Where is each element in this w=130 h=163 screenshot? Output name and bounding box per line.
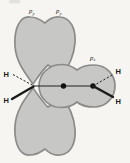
cropped-print-artifact [9,0,20,4]
py-label-left: py [28,7,36,16]
nucleus-dot-left [61,83,66,88]
h-label-top-left: H [4,70,9,79]
py-label-right: py [55,7,63,16]
py-label-left-sub: y [32,11,36,16]
h-label-bottom-right: H [116,97,121,106]
h-label-top-right: H [116,67,121,76]
pz-label-sub: z [93,57,96,62]
pz-label: pz [89,54,96,63]
orbital-diagram-canvas: H H H H py py pz [0,0,130,163]
h-label-bottom-left: H [4,96,9,105]
py-label-right-sub: y [59,11,63,16]
orbital-diagram-figure: H H H H py py pz [0,0,130,163]
